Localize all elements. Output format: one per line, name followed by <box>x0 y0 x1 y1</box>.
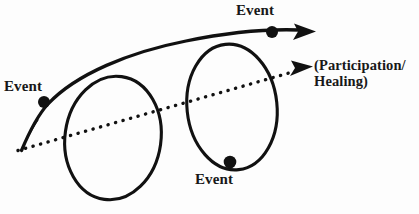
event-dot-left <box>38 96 50 108</box>
axis-label-line2: Healing) <box>314 73 406 89</box>
cycle-loop-right <box>181 40 284 175</box>
axis-label-line1: (Participation/ <box>314 57 406 73</box>
event-label-left: Event <box>4 78 42 95</box>
axis-label: (Participation/ Healing) <box>314 57 406 89</box>
cycle-loop-left <box>57 70 169 206</box>
axis-arrowhead-icon <box>290 61 313 77</box>
spiral-arrowhead-icon <box>293 24 316 41</box>
event-label-top: Event <box>236 2 274 19</box>
diagram-canvas: Event Event Event (Participation/ Healin… <box>0 0 419 214</box>
event-label-bottom: Event <box>195 171 233 188</box>
event-dot-bottom <box>224 156 237 169</box>
event-dot-top <box>266 26 278 38</box>
